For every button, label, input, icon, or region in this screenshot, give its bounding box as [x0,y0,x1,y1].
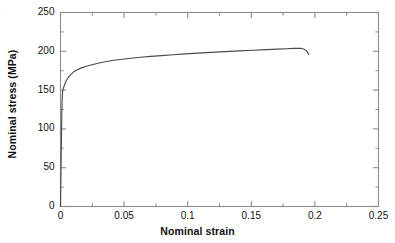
x-axis-tick-label: 0 [41,210,81,221]
x-axis-tick-label: 0.2 [295,210,335,221]
y-axis-tick-label: 150 [29,84,55,95]
y-axis-tick-label: 200 [29,45,55,56]
x-axis-tick-label: 0.25 [359,210,395,221]
y-axis-tick-label: 50 [29,161,55,172]
y-axis-title: Nominal stress (MPa) [6,19,18,189]
stress-strain-figure: . Nominal stress (MPa) Nominal strain 05… [0,0,395,243]
y-axis-tick-label: 250 [29,6,55,17]
x-axis-tick-label: 0.1 [168,210,208,221]
data-series-line [61,48,309,206]
x-axis-tick-label: 0.05 [104,210,144,221]
chart-plot-area [0,0,395,243]
y-axis-title-container: Nominal stress (MPa) [0,0,22,206]
plot-frame [61,13,379,207]
x-axis-tick-label: 0.15 [231,210,271,221]
y-axis-tick-label: 100 [29,122,55,133]
x-axis-title: Nominal strain [0,225,395,237]
